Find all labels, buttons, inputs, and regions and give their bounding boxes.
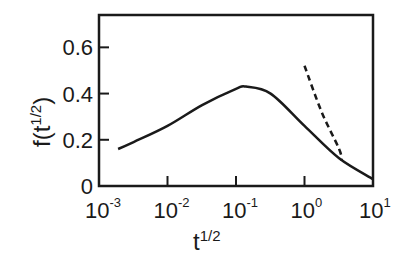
chart: 00.20.40.6 10-310-210-1100101 t1/2 f(t1/…: [0, 0, 407, 273]
y-tick-label: 0.6: [62, 35, 93, 60]
plot-frame: [99, 15, 373, 186]
x-tick-label: 100: [291, 195, 323, 223]
y-axis-ticks: 00.20.40.6: [62, 35, 109, 199]
x-axis-ticks: 10-310-210-1100101: [85, 176, 391, 223]
y-tick-label: 0.4: [62, 82, 93, 107]
x-tick-label: 10-2: [154, 195, 190, 223]
x-axis-title: t1/2: [193, 227, 221, 255]
y-tick-label: 0: [81, 174, 93, 199]
x-tick-label: 101: [359, 195, 391, 223]
x-tick-label: 10-3: [85, 195, 121, 223]
y-axis-title: f(t1/2): [27, 97, 55, 147]
x-tick-label: 10-1: [222, 195, 258, 223]
solid-curve: [118, 86, 373, 179]
dashed-curve: [305, 66, 342, 161]
y-tick-label: 0.2: [62, 128, 93, 153]
